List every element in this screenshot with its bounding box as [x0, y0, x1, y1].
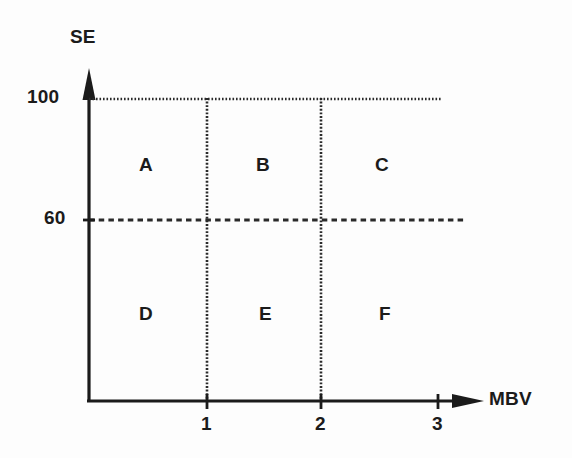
x-tick-label-2: 2	[315, 414, 326, 433]
y-axis-group	[83, 68, 96, 401]
chart-svg	[0, 0, 572, 458]
y-axis-title: SE	[70, 27, 96, 46]
x-axis-arrowhead	[452, 394, 484, 408]
cell-label-e: E	[259, 304, 272, 323]
x-tick-label-3: 3	[432, 414, 443, 433]
cell-label-a: A	[139, 155, 153, 174]
figure-canvas: SE MBV 100 60 1 2 3 A B C D E F	[0, 0, 572, 458]
x-axis-title: MBV	[489, 389, 532, 408]
y-tick-label-100: 100	[27, 87, 59, 106]
y-axis-arrowhead	[83, 68, 96, 100]
x-tick-label-1: 1	[201, 414, 212, 433]
cell-label-d: D	[139, 304, 153, 323]
x-axis-group	[87, 394, 484, 408]
cell-label-f: F	[379, 304, 391, 323]
cell-label-c: C	[375, 155, 389, 174]
y-tick-label-60: 60	[44, 208, 66, 227]
cell-label-b: B	[256, 155, 270, 174]
